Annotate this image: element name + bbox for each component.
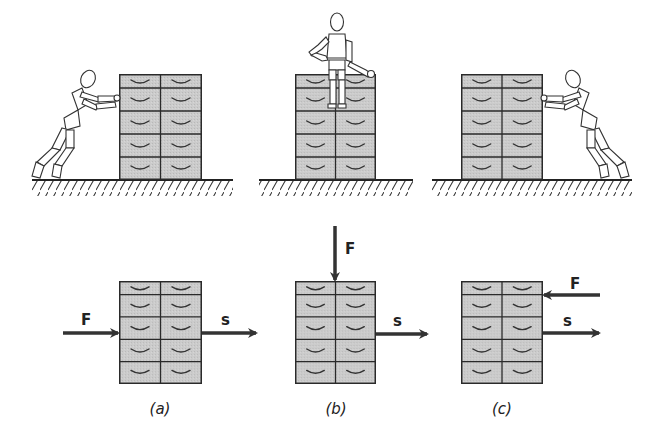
panel-b: F s (b) (295, 226, 427, 418)
mannequin-figure-pushing (32, 68, 120, 178)
filing-cabinet (461, 74, 543, 180)
filing-cabinet (461, 281, 543, 384)
force-label: F (81, 311, 91, 329)
scene-b-sitting-on-top (259, 13, 413, 196)
filing-cabinet (119, 281, 202, 384)
panel-c: F s (c) (461, 275, 600, 418)
scene-c-push-right (432, 68, 632, 196)
ground-hatch (32, 181, 233, 196)
work-force-diagram: F s (a) F s (b) F s (c) (0, 0, 653, 428)
filing-cabinet (119, 74, 202, 180)
panel-caption: (a) (150, 400, 171, 418)
panel-caption: (c) (492, 400, 512, 418)
force-label: F (345, 240, 355, 258)
displacement-label: s (221, 311, 230, 329)
mannequin-figure-pushing (541, 68, 629, 178)
ground-hatch (432, 181, 632, 196)
panel-caption: (b) (325, 400, 346, 418)
displacement-label: s (563, 312, 572, 330)
panel-a: F s (a) (63, 281, 256, 418)
ground-hatch (259, 181, 413, 196)
force-label: F (570, 275, 580, 293)
scene-a-push-left (32, 68, 233, 196)
filing-cabinet (295, 281, 376, 384)
displacement-label: s (393, 312, 402, 330)
